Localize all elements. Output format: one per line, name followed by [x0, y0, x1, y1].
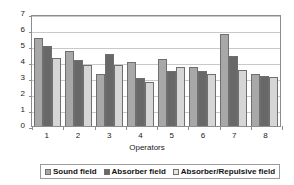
x-axis-tick-label: 2 [62, 131, 93, 140]
x-axis-tick-mark [188, 126, 189, 130]
x-axis-title: Operators [0, 143, 294, 152]
bar-group [187, 16, 218, 126]
legend-item: Sound field [45, 167, 97, 176]
bar-group [63, 16, 94, 126]
bar [136, 78, 145, 126]
bar [96, 74, 105, 126]
x-axis-tick-label: 3 [94, 131, 125, 140]
legend-label: Absorber field [112, 167, 166, 176]
bar-chart: Time (s) 01234567 12345678 Operators Sou… [0, 0, 294, 185]
bar-group [156, 16, 187, 126]
legend-label: Absorber/Repulsive field [181, 167, 275, 176]
bar [158, 59, 167, 126]
y-axis-tick-label: 6 [5, 26, 25, 34]
x-axis-tick-label: 8 [250, 131, 281, 140]
bar-group [32, 16, 63, 126]
bar [145, 82, 154, 126]
x-axis-tick-label: 5 [156, 131, 187, 140]
x-axis-tick-mark [63, 126, 64, 130]
legend-swatch-absorber-repulsive-field [173, 169, 179, 175]
plot-area [31, 15, 281, 127]
x-axis-tick-mark [95, 126, 96, 130]
x-axis-tick-label: 6 [187, 131, 218, 140]
y-axis-tick-label: 0 [5, 122, 25, 130]
bar [105, 54, 114, 126]
bar-group [218, 16, 249, 126]
bar [34, 38, 43, 126]
bar-group [249, 16, 280, 126]
bar-group [125, 16, 156, 126]
y-axis-tick-label: 3 [5, 74, 25, 82]
x-axis-tick-label: 4 [125, 131, 156, 140]
x-axis-tick-mark [157, 126, 158, 130]
bar [238, 70, 247, 126]
x-axis-tick-label: 7 [219, 131, 250, 140]
bar [167, 71, 176, 126]
bar [189, 67, 198, 126]
x-axis-tick-mark [32, 126, 33, 130]
x-axis-tick-mark [282, 126, 283, 130]
y-axis-tick-label: 2 [5, 90, 25, 98]
y-axis-tick-label: 5 [5, 42, 25, 50]
bar [114, 65, 123, 126]
bar [207, 74, 216, 126]
legend-swatch-sound-field [45, 169, 51, 175]
chart-legend: Sound fieldAbsorber fieldAbsorber/Repuls… [40, 164, 280, 179]
legend-item: Absorber field [104, 167, 166, 176]
bar [65, 51, 74, 126]
bar [52, 58, 61, 126]
y-axis-tick-label: 4 [5, 58, 25, 66]
bar [83, 65, 92, 126]
bar-group [94, 16, 125, 126]
bar [43, 46, 52, 126]
y-axis-tick-label: 7 [5, 10, 25, 18]
bar [269, 77, 278, 126]
bar [127, 62, 136, 126]
bar-groups [32, 16, 280, 126]
y-axis-tick-label: 1 [5, 106, 25, 114]
bar [74, 60, 83, 126]
x-axis-tick-mark [220, 126, 221, 130]
bar [176, 67, 185, 126]
bar [229, 56, 238, 126]
legend-item: Absorber/Repulsive field [173, 167, 275, 176]
bar [220, 34, 229, 126]
bar [198, 71, 207, 126]
x-axis-tick-mark [251, 126, 252, 130]
x-axis-tick-labels: 12345678 [31, 131, 281, 140]
legend-swatch-absorber-field [104, 169, 110, 175]
legend-label: Sound field [53, 167, 97, 176]
bar [251, 74, 260, 126]
bar [260, 76, 269, 126]
x-axis-tick-mark [126, 126, 127, 130]
x-axis-tick-label: 1 [31, 131, 62, 140]
